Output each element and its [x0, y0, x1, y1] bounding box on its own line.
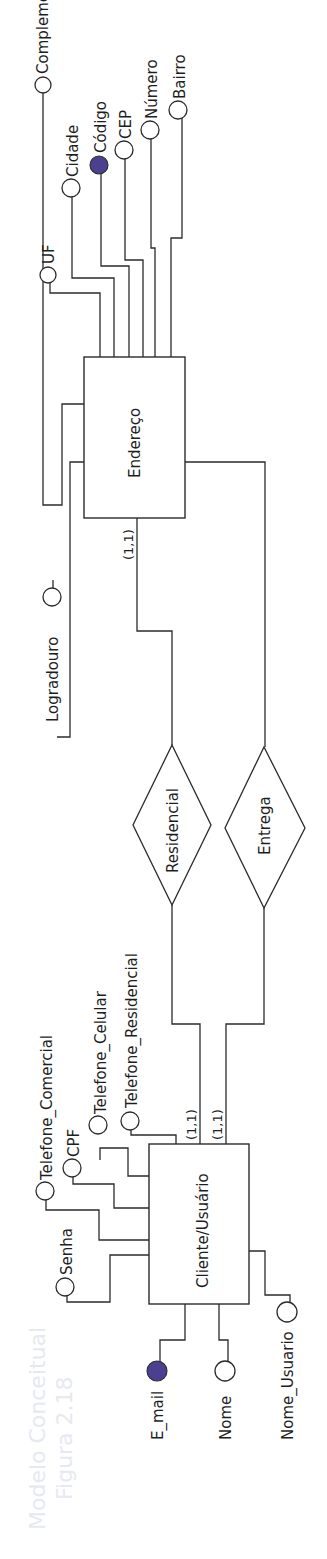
attribute-label: Cidade	[64, 125, 82, 177]
attribute-circle-icon	[121, 1112, 139, 1130]
attribute-label: Nome	[217, 1396, 235, 1440]
attribute-circle-icon	[215, 1361, 235, 1381]
attribute-numero[interactable]: Número	[141, 59, 161, 139]
attribute-label: UF	[40, 244, 58, 264]
attribute-uf[interactable]: UF	[40, 244, 58, 283]
attribute-bairro[interactable]: Bairro	[169, 54, 189, 119]
attribute-circle-icon	[89, 1116, 107, 1134]
attribute-logradouro[interactable]: Logradouro	[43, 588, 62, 722]
attribute-circle-icon	[62, 179, 80, 197]
attribute-cpf[interactable]: CPF	[63, 1129, 83, 1177]
attribute-label: CPF	[65, 1129, 83, 1157]
attribute-label: Número	[143, 59, 161, 119]
attribute-circle-icon	[141, 121, 159, 139]
attribute-label: CEP	[117, 110, 135, 139]
attribute-label: Telefone_Comercial	[38, 1035, 57, 1181]
attribute-circle-icon	[63, 1159, 81, 1177]
attribute-label: Bairro	[171, 54, 189, 99]
attribute-label: Senha	[58, 1228, 76, 1275]
attribute-circle-icon	[36, 1182, 54, 1200]
entity-endereco-label: Endereço	[126, 408, 144, 478]
attribute-circle-icon	[40, 267, 56, 283]
attribute-nome[interactable]: Nome	[215, 1361, 235, 1440]
relationship-label: Entrega	[256, 796, 274, 855]
attribute-telefone-celular[interactable]: Telefone_Celular	[89, 990, 111, 1134]
cardinality-endereco-residencial: (1,1)	[121, 529, 136, 560]
attribute-telefone-residencial[interactable]: Telefone_Residencial	[121, 953, 142, 1130]
attribute-e-mail[interactable]: E_mail	[147, 1361, 168, 1440]
attribute-label: Telefone_Residencial	[123, 953, 142, 1109]
attribute-label: Telefone_Celular	[92, 990, 111, 1115]
attribute-codigo[interactable]: Código	[90, 101, 110, 174]
attribute-circle-icon	[56, 1278, 74, 1296]
attribute-telefone-comercial[interactable]: Telefone_Comercial	[36, 1035, 57, 1200]
relationship-entrega[interactable]: Entrega	[225, 747, 305, 908]
entity-endereco[interactable]: Endereço	[84, 357, 185, 518]
attribute-cep[interactable]: CEP	[115, 110, 135, 159]
er-diagram: Figura 2.18 Modelo Conceitual Endereço U…	[0, 0, 327, 1559]
attribute-label: E_mail	[149, 1391, 168, 1440]
attribute-circle-icon	[115, 141, 133, 159]
attribute-circle-icon	[35, 77, 51, 93]
attribute-complemento[interactable]: Complemento	[34, 0, 52, 93]
attribute-circle-icon	[169, 101, 187, 119]
identifier-attribute-icon	[147, 1361, 167, 1381]
entity-cliente[interactable]: Cliente/Usuário	[149, 1144, 249, 1304]
bleed-text-figure: Figura 2.18	[52, 1376, 77, 1500]
identifier-attribute-icon	[90, 156, 108, 174]
attribute-label: Nome_Usuario	[279, 1331, 298, 1440]
relationship-label: Residencial	[164, 788, 182, 873]
attribute-circle-icon	[277, 1302, 297, 1322]
attribute-label: Complemento	[34, 0, 52, 74]
background-bleed: Figura 2.18 Modelo Conceitual	[25, 1327, 77, 1530]
attribute-cidade[interactable]: Cidade	[62, 125, 82, 197]
relationship-residencial[interactable]: Residencial	[133, 745, 211, 905]
attribute-circle-icon	[43, 588, 61, 606]
attribute-label: Logradouro	[44, 637, 62, 722]
attribute-label: Código	[92, 101, 110, 153]
cardinality-cliente-residencial: (1,1)	[184, 1109, 199, 1140]
attribute-nome-usuario[interactable]: Nome_Usuario	[277, 1302, 298, 1440]
entity-cliente-label: Cliente/Usuário	[194, 1173, 212, 1288]
bleed-text-caption: Modelo Conceitual	[25, 1327, 50, 1530]
cardinality-cliente-entrega: (1,1)	[210, 1109, 225, 1140]
attribute-senha[interactable]: Senha	[56, 1228, 76, 1296]
